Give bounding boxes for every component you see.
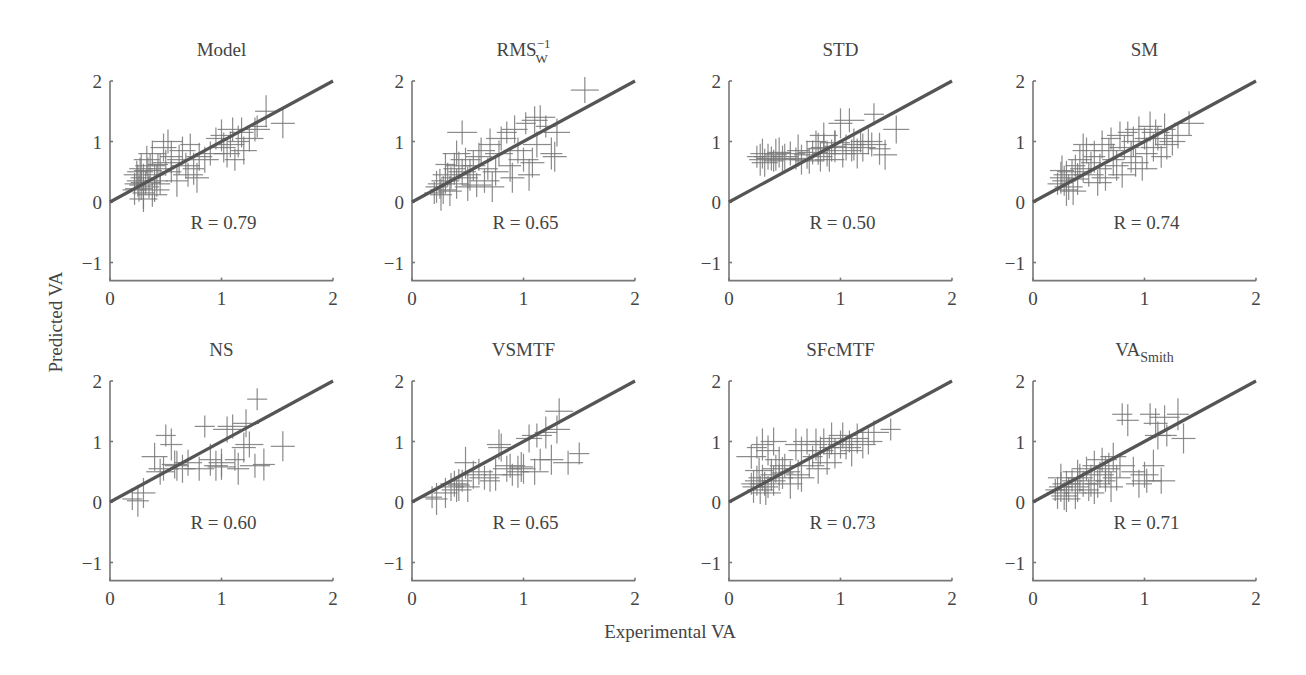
y-tick-label: 2 — [93, 71, 103, 92]
scatter-figure: Predicted VA Experimental VA Model210−10… — [0, 0, 1306, 675]
x-tick-label: 2 — [328, 588, 338, 609]
x-tick-label: 0 — [105, 288, 115, 309]
x-tick-label: 2 — [1251, 588, 1261, 609]
y-tick-label: −1 — [384, 253, 404, 274]
panels-grid: Model210−1012R = 0.79RMS−1W210−1012R = 0… — [82, 36, 1261, 609]
x-tick-label: 1 — [836, 588, 846, 609]
panel-title: SFcMTF — [806, 339, 875, 360]
x-tick-label: 1 — [217, 588, 227, 609]
identity-line — [110, 81, 333, 202]
y-tick-label: −1 — [82, 553, 102, 574]
data-points — [1048, 111, 1205, 206]
y-tick-label: −1 — [82, 253, 102, 274]
x-axis-label: Experimental VA — [604, 621, 736, 642]
y-tick-label: 2 — [395, 371, 405, 392]
x-tick-label: 1 — [836, 288, 846, 309]
scatter-panel: RMS−1W210−1012R = 0.65 — [384, 36, 640, 309]
x-tick-label: 2 — [1251, 288, 1261, 309]
y-tick-label: 1 — [712, 132, 722, 153]
correlation-label: R = 0.65 — [492, 512, 558, 533]
panel-title: RMS−1W — [497, 36, 551, 66]
y-tick-label: 2 — [395, 71, 405, 92]
scatter-panel: SFcMTF210−1012R = 0.73 — [701, 339, 957, 609]
correlation-label: R = 0.74 — [1113, 212, 1180, 233]
x-tick-label: 1 — [1140, 588, 1150, 609]
y-tick-label: 2 — [1016, 71, 1026, 92]
x-tick-label: 2 — [630, 288, 640, 309]
scatter-panel: VASmith210−1012R = 0.71 — [1005, 339, 1261, 609]
y-tick-label: −1 — [701, 553, 721, 574]
x-tick-label: 2 — [947, 588, 957, 609]
y-tick-label: 0 — [712, 192, 722, 213]
panel-title: NS — [209, 339, 233, 360]
y-tick-label: 2 — [1016, 371, 1026, 392]
y-tick-label: 1 — [1016, 432, 1026, 453]
correlation-label: R = 0.60 — [190, 512, 256, 533]
correlation-label: R = 0.73 — [809, 512, 875, 533]
data-points — [422, 398, 589, 515]
data-points — [122, 388, 295, 517]
x-tick-label: 0 — [407, 588, 417, 609]
y-tick-label: 0 — [93, 492, 103, 513]
data-points — [424, 77, 599, 211]
panel-title: STD — [823, 39, 859, 60]
y-tick-label: 2 — [93, 371, 103, 392]
x-tick-label: 1 — [519, 588, 529, 609]
y-tick-label: 1 — [712, 432, 722, 453]
y-tick-label: 0 — [1016, 492, 1026, 513]
scatter-panel: STD210−1012R = 0.50 — [701, 39, 957, 309]
data-points — [736, 418, 900, 505]
panel-title: Model — [197, 39, 247, 60]
x-tick-label: 0 — [1028, 588, 1038, 609]
scatter-panel: VSMTF210−1012R = 0.65 — [384, 339, 640, 609]
x-tick-label: 0 — [407, 288, 417, 309]
y-tick-label: 0 — [1016, 192, 1026, 213]
y-tick-label: −1 — [701, 253, 721, 274]
data-points — [123, 95, 295, 212]
identity-line — [412, 81, 635, 202]
y-tick-label: 0 — [395, 492, 405, 513]
x-tick-label: 1 — [1140, 288, 1150, 309]
x-tick-label: 2 — [328, 288, 338, 309]
identity-line — [110, 381, 333, 502]
y-tick-label: 1 — [395, 132, 405, 153]
correlation-label: R = 0.79 — [190, 212, 256, 233]
data-points — [747, 103, 909, 176]
y-axis-label: Predicted VA — [45, 271, 66, 372]
x-tick-label: 2 — [947, 288, 957, 309]
y-tick-label: 1 — [93, 432, 103, 453]
scatter-panel: Model210−1012R = 0.79 — [82, 39, 338, 309]
x-tick-label: 0 — [724, 288, 734, 309]
y-tick-label: 0 — [93, 192, 103, 213]
correlation-label: R = 0.65 — [492, 212, 558, 233]
panel-title: SM — [1131, 39, 1159, 60]
y-tick-label: 0 — [712, 492, 722, 513]
y-tick-label: 1 — [93, 132, 103, 153]
correlation-label: R = 0.50 — [809, 212, 875, 233]
x-tick-label: 1 — [519, 288, 529, 309]
y-tick-label: −1 — [1005, 253, 1025, 274]
x-tick-label: 0 — [105, 588, 115, 609]
x-tick-label: 0 — [1028, 288, 1038, 309]
y-tick-label: −1 — [384, 553, 404, 574]
y-tick-label: 2 — [712, 71, 722, 92]
x-tick-label: 0 — [724, 588, 734, 609]
panel-title: VSMTF — [492, 339, 555, 360]
y-tick-label: −1 — [1005, 553, 1025, 574]
y-tick-label: 2 — [712, 371, 722, 392]
y-tick-label: 0 — [395, 192, 405, 213]
scatter-panel: NS210−1012R = 0.60 — [82, 339, 338, 609]
y-tick-label: 1 — [395, 432, 405, 453]
identity-line — [412, 381, 635, 502]
x-tick-label: 1 — [217, 288, 227, 309]
identity-line — [1033, 81, 1256, 202]
x-tick-label: 2 — [630, 588, 640, 609]
panel-title: VASmith — [1115, 339, 1173, 365]
scatter-panel: SM210−1012R = 0.74 — [1005, 39, 1261, 309]
correlation-label: R = 0.71 — [1113, 512, 1179, 533]
y-tick-label: 1 — [1016, 132, 1026, 153]
